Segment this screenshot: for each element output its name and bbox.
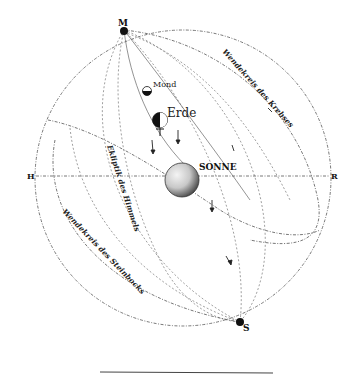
horizon-h-label: H (27, 171, 35, 181)
celestial-sphere-diagram: M S H R SONNE Mond Erde Wendekreis des K… (0, 0, 356, 384)
tropic-capricorn-inner-arc (70, 128, 240, 322)
moon-shadow (143, 91, 152, 96)
pole-s-label: S (243, 323, 250, 333)
tropic-cancer-inner-arc (124, 32, 290, 200)
tropic-cancer-arc (124, 30, 319, 244)
horizon-r-label: R (331, 171, 338, 181)
earth-label: Erde (167, 106, 196, 120)
footer-rule (100, 372, 273, 373)
moon-orbit-path (124, 30, 185, 165)
pole-m-marker (120, 27, 128, 35)
moon-label: Mond (153, 80, 176, 89)
sun-label: SONNE (199, 162, 237, 172)
sun-icon (165, 163, 199, 197)
tropic-cancer-label: Wendekreis des Krebses (221, 47, 297, 130)
pole-m-label: M (118, 18, 128, 28)
